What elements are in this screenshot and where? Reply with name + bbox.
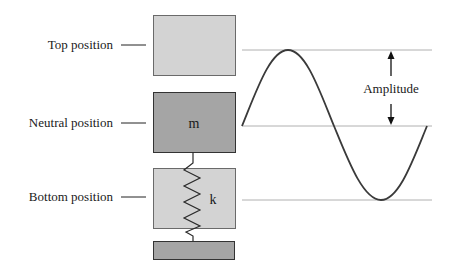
amplitude-down-arrow-icon xyxy=(388,104,395,125)
neutral-position-label: Neutral position xyxy=(29,115,114,130)
ground-base xyxy=(154,242,235,260)
top-position-box xyxy=(154,16,236,76)
amplitude-label: Amplitude xyxy=(363,81,419,96)
spring-constant-label: k xyxy=(210,192,217,207)
displacement-sine-curve xyxy=(242,50,427,200)
bottom-position-label: Bottom position xyxy=(29,189,114,204)
spring-mass-oscillation-diagram: Top position Neutral position Bottom pos… xyxy=(0,0,454,270)
bottom-position-box xyxy=(154,169,236,229)
top-position-label: Top position xyxy=(48,37,114,52)
mass-label: m xyxy=(189,116,200,131)
amplitude-up-arrow-icon xyxy=(388,51,395,76)
